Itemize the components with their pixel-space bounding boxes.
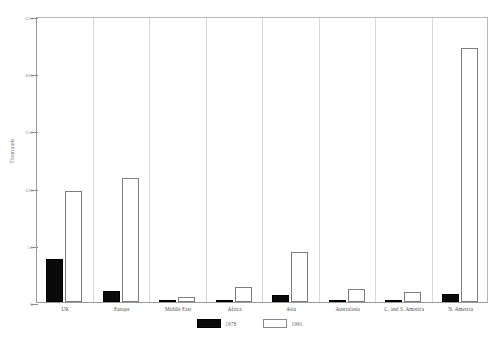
x-axis-label: Africa <box>207 306 264 312</box>
category-group <box>150 18 207 302</box>
x-axis-label: Middle East <box>150 306 207 312</box>
bar-1991-c-and-s-america <box>404 292 421 302</box>
top-cutoff-text <box>0 0 499 11</box>
bar-1991-middle-east <box>178 297 195 302</box>
x-axis-label: Australasia <box>320 306 377 312</box>
x-axis-label: C. and S. America <box>376 306 433 312</box>
bar-1991-australasia <box>348 289 365 302</box>
y-axis-title: Thousands <box>9 121 15 181</box>
bar-1978-c-and-s-america <box>385 300 402 302</box>
y-tick-label: 150 <box>25 130 33 135</box>
legend-item: 1978 <box>197 319 237 328</box>
bar-1978-n-america <box>442 294 459 302</box>
bar-1978-australasia <box>329 300 346 302</box>
legend-swatch-1991 <box>263 319 287 328</box>
category-group <box>37 18 94 302</box>
bar-1991-n-america <box>461 48 478 302</box>
legend-label: 1978 <box>226 321 237 327</box>
category-group <box>207 18 264 302</box>
x-axis-label: N. America <box>433 306 490 312</box>
legend-swatch-1978 <box>197 319 221 328</box>
x-axis-label: Europe <box>94 306 151 312</box>
y-tick-label: 0 <box>30 302 33 307</box>
bar-1978-africa <box>216 300 233 302</box>
category-group <box>94 18 151 302</box>
bar-chart: Thousands 050100150200250UKEuropeMiddle … <box>0 0 499 343</box>
bar-1978-uk <box>46 259 63 302</box>
y-tick-label: 50 <box>28 244 33 249</box>
bar-1991-europe <box>122 178 139 302</box>
legend-item: 1991 <box>263 319 303 328</box>
y-tick-label: 250 <box>25 16 33 21</box>
bar-1978-asia <box>272 295 289 302</box>
plot-inner: 050100150200250UKEuropeMiddle EastAfrica… <box>37 18 487 302</box>
x-axis-label: Asia <box>263 306 320 312</box>
y-tick-label: 100 <box>25 187 33 192</box>
bar-1978-middle-east <box>159 300 176 302</box>
legend-label: 1991 <box>292 321 303 327</box>
plot-area: 050100150200250UKEuropeMiddle EastAfrica… <box>36 17 488 303</box>
y-tick-label: 200 <box>25 73 33 78</box>
category-group <box>320 18 377 302</box>
bar-1991-uk <box>65 191 82 302</box>
category-group <box>376 18 433 302</box>
bar-1978-europe <box>103 291 120 302</box>
chart-legend: 19781991 <box>0 319 499 328</box>
category-group <box>263 18 320 302</box>
bar-1991-asia <box>291 252 308 302</box>
category-group <box>433 18 490 302</box>
bar-1991-africa <box>235 287 252 302</box>
x-axis-label: UK <box>37 306 94 312</box>
